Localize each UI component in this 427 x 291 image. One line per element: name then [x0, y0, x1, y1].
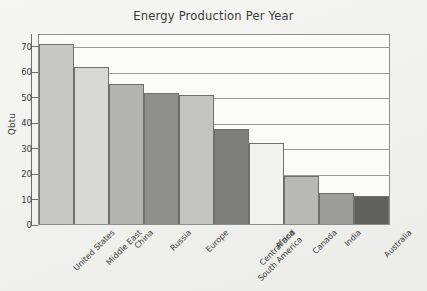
x-tick: Central and South America [214, 226, 249, 290]
bar[interactable] [109, 84, 144, 224]
chart-figure: Energy Production Per Year Qbtu 01020304… [0, 0, 427, 291]
y-tick-label: 40 [10, 118, 32, 128]
y-tick-label: 50 [10, 93, 32, 103]
x-tick: Africa [249, 226, 284, 290]
chart-title: Energy Production Per Year [0, 9, 427, 23]
bar[interactable] [144, 93, 179, 224]
bar[interactable] [74, 67, 109, 224]
y-tick-label: 30 [10, 144, 32, 154]
x-tick: Australia [355, 226, 390, 290]
plot-area [38, 34, 390, 225]
y-axis-ticks: 010203040506070 [6, 34, 32, 225]
bar-series [39, 35, 389, 224]
x-axis-labels: United StatesMiddle EastChinaRussiaEurop… [38, 226, 390, 290]
x-tick: China [108, 226, 143, 290]
x-tick: Canada [284, 226, 319, 290]
bar[interactable] [354, 196, 389, 224]
bar[interactable] [214, 129, 249, 225]
y-tick-label: 60 [10, 67, 32, 77]
y-tick-label: 10 [10, 195, 32, 205]
x-tick: Middle East [73, 226, 108, 290]
y-tick-label: 70 [10, 42, 32, 52]
x-tick: India [320, 226, 355, 290]
x-tick: Europe [179, 226, 214, 290]
bar[interactable] [39, 44, 74, 224]
x-tick: United States [38, 226, 73, 290]
bar[interactable] [179, 95, 214, 224]
x-tick-label: Australia [383, 228, 415, 260]
y-tick-label: 20 [10, 169, 32, 179]
x-tick: Russia [144, 226, 179, 290]
bar[interactable] [319, 193, 354, 224]
bar[interactable] [249, 143, 284, 224]
y-tick-label: 0 [10, 220, 32, 230]
bar[interactable] [284, 176, 319, 224]
